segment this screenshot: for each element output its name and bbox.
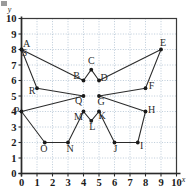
x-tick-label: 9 [158, 177, 163, 188]
y-tick-label: 2 [11, 137, 16, 148]
x-tick-label: 8 [143, 177, 148, 188]
x-tick-label: 0 [19, 177, 24, 188]
y-tick-label: 6 [11, 75, 16, 86]
data-point-marker [144, 86, 148, 90]
point-label: K [98, 110, 106, 121]
y-tick-labels: 012345678910 [6, 13, 17, 179]
y-tick-label: 7 [11, 60, 16, 71]
x-axis-label: x [181, 175, 186, 184]
point-label: O [40, 143, 47, 154]
data-point-marker [35, 86, 39, 90]
data-point-marker [82, 79, 86, 83]
point-label: C [88, 55, 95, 66]
point-label: S [22, 47, 28, 58]
y-tick-label: 5 [11, 91, 16, 102]
data-point-marker [82, 94, 86, 98]
x-tick-label: 10 [171, 177, 182, 188]
point-label: E [160, 37, 166, 48]
x-tick-label: 3 [65, 177, 70, 188]
data-point-marker [20, 110, 24, 114]
point-label: D [100, 72, 107, 83]
chart-figure: 012345678910012345678910xyABCDEFGHIJKLMN… [0, 0, 191, 192]
point-label: G [97, 96, 104, 107]
data-point-marker [159, 48, 163, 52]
y-tick-label: 1 [11, 153, 16, 164]
y-tick-label: 0 [11, 168, 16, 179]
x-tick-labels: 012345678910 [19, 177, 182, 188]
y-tick-label: 9 [11, 29, 16, 40]
y-tick-label: 10 [6, 13, 17, 24]
x-tick-label: 2 [50, 177, 55, 188]
point-label: H [148, 104, 155, 115]
x-tick-label: 4 [81, 177, 87, 188]
point-label: B [73, 70, 80, 81]
x-tick-label: 1 [34, 177, 39, 188]
y-tick-label: 3 [11, 122, 16, 133]
point-label: J [114, 143, 118, 154]
x-tick-label: 6 [112, 177, 117, 188]
point-label: R [29, 85, 36, 96]
point-label: P [14, 105, 20, 116]
point-label: Q [75, 95, 83, 106]
data-point-marker [89, 68, 93, 72]
data-point-marker [144, 110, 148, 114]
butterfly-polygon-plot: 012345678910012345678910xyABCDEFGHIJKLMN… [0, 0, 191, 192]
x-tick-label: 5 [96, 177, 101, 188]
point-label: I [140, 140, 143, 151]
point-label: L [89, 121, 95, 132]
data-point-marker [136, 141, 140, 145]
point-label: N [66, 143, 73, 154]
point-label: F [149, 80, 155, 91]
y-tick-label: 8 [11, 44, 16, 55]
point-label: M [74, 111, 83, 122]
y-axis-label: y [7, 5, 12, 14]
x-tick-label: 7 [127, 177, 132, 188]
